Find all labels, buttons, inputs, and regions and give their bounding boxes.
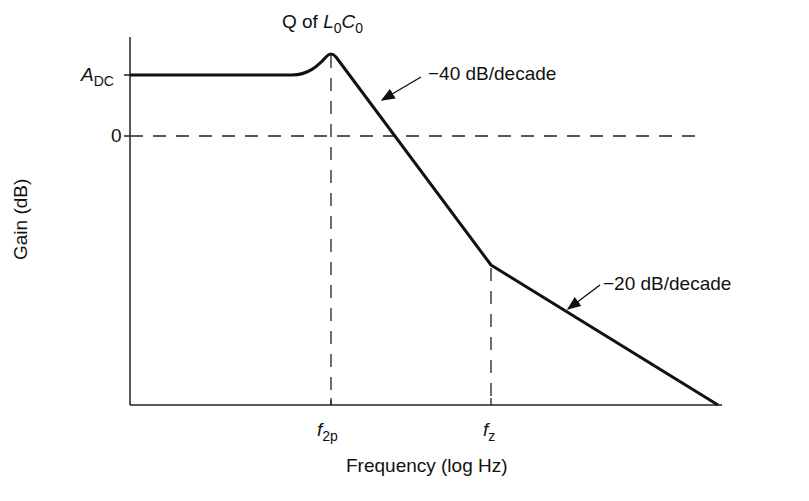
slope20-label: −20 dB/decade bbox=[603, 273, 731, 295]
slope20-arrow bbox=[568, 285, 600, 309]
x-tick-label-fz: fz bbox=[483, 419, 495, 441]
q-annotation: Q of L0C0 bbox=[282, 11, 363, 33]
slope40-label: −40 dB/decade bbox=[428, 63, 556, 85]
y-axis-title: Gain (dB) bbox=[10, 179, 32, 260]
y-tick-label-zero: 0 bbox=[111, 125, 122, 147]
x-axis-title: Frequency (log Hz) bbox=[346, 455, 508, 477]
y-tick-label-adc: ADC bbox=[81, 64, 114, 86]
x-tick-label-f2p: f2p bbox=[317, 419, 338, 441]
bode-plot bbox=[0, 0, 809, 501]
gain-curve bbox=[130, 54, 718, 405]
slope40-arrow bbox=[382, 77, 421, 100]
